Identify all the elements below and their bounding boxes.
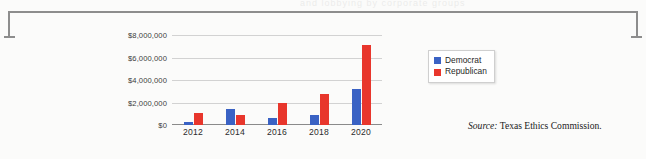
x-axis-tick-label-2020: 2020 xyxy=(340,127,382,137)
bracket-left-arm xyxy=(8,11,10,37)
bar-republican-2016 xyxy=(278,103,287,125)
bar-groups xyxy=(172,35,382,125)
bracket-right-foot xyxy=(631,36,642,38)
y-axis-tick-label: $4,000,000 xyxy=(128,76,167,85)
bar-democrat-2018 xyxy=(310,115,319,125)
y-axis-tick-label: $6,000,000 xyxy=(128,53,167,62)
source-text: Texas Ethics Commission. xyxy=(497,120,601,131)
bar-democrat-2012 xyxy=(184,122,193,125)
bracket-top-rule xyxy=(8,11,638,13)
x-axis-tick-label-2012: 2012 xyxy=(172,127,214,137)
y-axis-tick-label: $2,000,000 xyxy=(128,98,167,107)
source-note: Source: Texas Ethics Commission. xyxy=(468,120,638,133)
bar-group xyxy=(172,35,214,125)
legend-swatch-icon xyxy=(434,69,441,76)
plot-area: $8,000,000$6,000,000$4,000,000$2,000,000… xyxy=(172,35,382,125)
bar-republican-2018 xyxy=(320,94,329,126)
x-axis-tick-label-2016: 2016 xyxy=(256,127,298,137)
bar-group xyxy=(214,35,256,125)
bracket-left-foot xyxy=(4,36,15,38)
bar-democrat-2014 xyxy=(226,109,235,125)
legend-swatch-icon xyxy=(434,57,441,64)
legend-label: Republican xyxy=(445,66,487,77)
legend-item-republican: Republican xyxy=(434,66,487,77)
y-axis-tick-label: $0 xyxy=(158,121,167,130)
x-axis-tick-labels: 20122014201620182020 xyxy=(172,127,382,137)
bar-group xyxy=(298,35,340,125)
bar-republican-2012 xyxy=(194,113,203,125)
y-axis-tick-label: $8,000,000 xyxy=(128,31,167,40)
chart-legend: DemocratRepublican xyxy=(428,50,495,83)
bar-chart: $8,000,000$6,000,000$4,000,000$2,000,000… xyxy=(50,22,430,150)
bar-group xyxy=(340,35,382,125)
legend-item-democrat: Democrat xyxy=(434,55,487,66)
bar-democrat-2016 xyxy=(268,118,277,125)
x-axis-tick-label-2014: 2014 xyxy=(214,127,256,137)
bar-republican-2020 xyxy=(362,45,371,125)
bar-group xyxy=(256,35,298,125)
chart-figure: and lobbying by corporate groups $8,000,… xyxy=(0,0,646,159)
bracket-right-arm xyxy=(636,11,638,37)
bar-republican-2014 xyxy=(236,115,245,125)
bar-democrat-2020 xyxy=(352,89,361,125)
page-bleed-text: and lobbying by corporate groups xyxy=(300,0,600,8)
source-prefix: Source: xyxy=(468,120,497,131)
legend-label: Democrat xyxy=(445,55,481,66)
x-axis-tick-label-2018: 2018 xyxy=(298,127,340,137)
